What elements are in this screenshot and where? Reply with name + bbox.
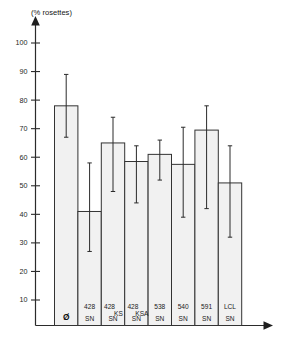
y-axis-tick-label: 100 — [16, 38, 28, 47]
y-axis-tick-label: 80 — [20, 96, 28, 105]
x-axis-arrow-icon — [264, 321, 274, 330]
y-axis — [31, 16, 40, 326]
y-axis-title: (% rosettes) — [31, 8, 72, 17]
x-axis-category-sublabel: SN — [179, 315, 188, 322]
x-axis-category-sublabel: SN — [85, 315, 94, 322]
x-axis-category-label: Ø — [63, 312, 70, 322]
y-axis-tick-label: 60 — [20, 153, 28, 162]
y-axis-arrow-icon — [31, 16, 40, 26]
x-axis-category-label: LCL — [224, 303, 236, 310]
x-axis-category-label: 591 — [201, 303, 212, 310]
x-axis-category-label: 540 — [178, 303, 189, 310]
bar-chart-svg: (% rosettes) 102030405060708090100 Ø428S… — [0, 0, 284, 351]
chart-figure: (% rosettes) 102030405060708090100 Ø428S… — [0, 0, 284, 351]
x-axis-category-sublabel: SN — [108, 315, 117, 322]
x-axis-category-label: 428 — [84, 303, 95, 310]
y-axis-tick-label: 50 — [20, 181, 28, 190]
x-axis-category-sublabel: SN — [225, 315, 234, 322]
x-axis-category-sublabel: SN — [202, 315, 211, 322]
y-axis-tick-label: 70 — [20, 124, 28, 133]
x-axis-category-sublabel: SN — [155, 315, 164, 322]
x-axis-category-label: 538 — [154, 303, 165, 310]
y-axis-tick-label: 30 — [20, 238, 28, 247]
x-axis-category-sublabel: SN — [132, 315, 141, 322]
bars-group — [55, 74, 242, 325]
y-axis-tick-label: 10 — [20, 295, 28, 304]
y-axis-tick-label: 40 — [20, 210, 28, 219]
y-axis-tick-label: 20 — [20, 267, 28, 276]
y-axis-ticks: 102030405060708090100 — [16, 38, 41, 304]
bar — [55, 106, 78, 326]
y-axis-tick-label: 90 — [20, 67, 28, 76]
